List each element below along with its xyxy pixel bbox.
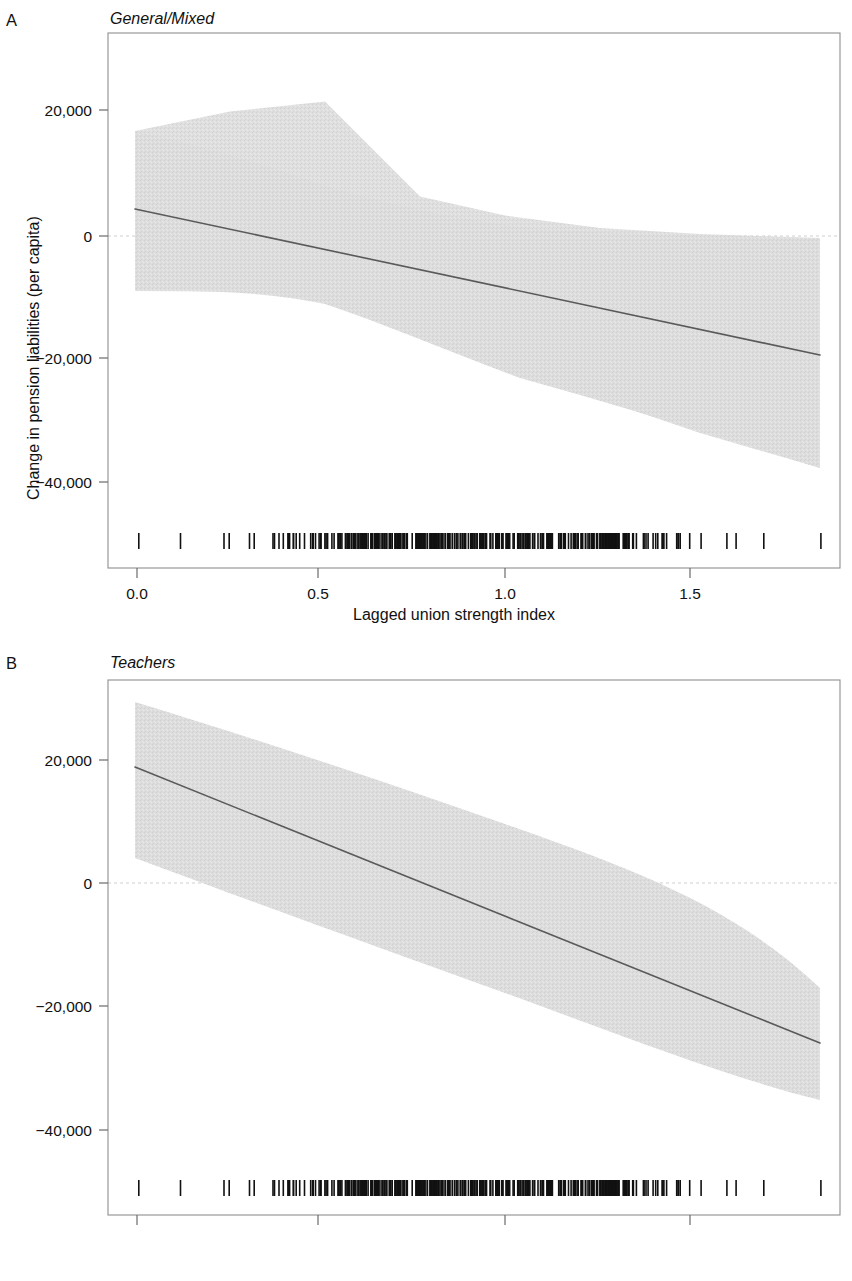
panel-b-ytick-3: −40,000 bbox=[0, 1123, 92, 1139]
panel-a-ytick-0: 20,000 bbox=[0, 103, 92, 119]
panel-b-ytick-0: 20,000 bbox=[0, 753, 92, 769]
panel-a-x-axis-label: Lagged union strength index bbox=[0, 607, 852, 623]
panel-a-xtick-0: 0.0 bbox=[107, 586, 167, 602]
panel-b-letter: B bbox=[6, 655, 17, 672]
panel-b-ytick-2: −20,000 bbox=[0, 999, 92, 1015]
panel-b: B Teachers Change in pension liabilities… bbox=[0, 640, 852, 1281]
panel-a-letter: A bbox=[6, 12, 17, 29]
panel-a-ytick-1: 0 bbox=[0, 229, 92, 245]
figure-container: A General/Mixed Change in pension liabil… bbox=[0, 0, 852, 1281]
panel-a: A General/Mixed Change in pension liabil… bbox=[0, 0, 852, 640]
panel-a-title: General/Mixed bbox=[110, 11, 214, 27]
panel-a-xtick-2: 1.0 bbox=[475, 586, 535, 602]
panel-b-ytick-1: 0 bbox=[0, 876, 92, 892]
panel-a-xtick-3: 1.5 bbox=[660, 586, 720, 602]
panel-a-ytick-3: −40,000 bbox=[0, 475, 92, 491]
panel-a-ytick-2: −20,000 bbox=[0, 351, 92, 367]
panel-b-title: Teachers bbox=[110, 655, 175, 671]
panel-a-xtick-1: 0.5 bbox=[288, 586, 348, 602]
